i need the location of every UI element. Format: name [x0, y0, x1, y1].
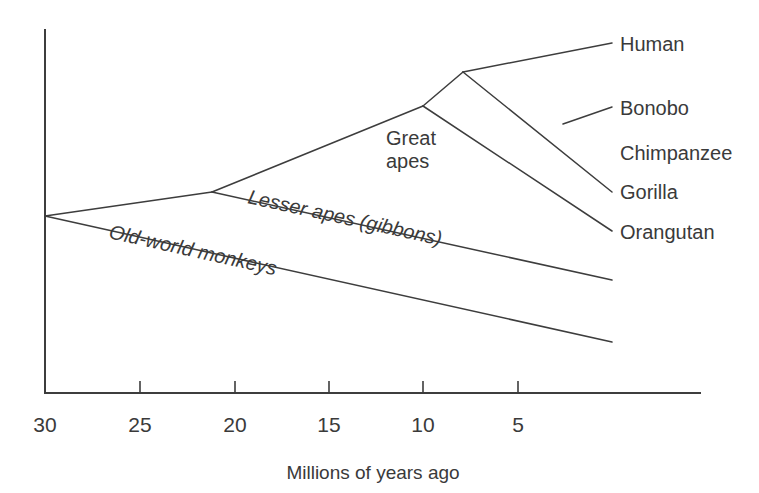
clade-label-old-world-monkeys: Old-world monkeys: [107, 220, 279, 279]
clade-label-great-apes-line2: apes: [386, 150, 429, 172]
x-tick-label-10: 10: [411, 413, 434, 436]
taxon-label-bonobo: Bonobo: [620, 97, 689, 119]
tree-diagram-canvas: 30 25 20 15 10 5 Millions of years ago: [0, 0, 759, 493]
branch-human: [463, 43, 612, 72]
x-axis-title: Millions of years ago: [286, 462, 459, 483]
phylogenetic-tree-figure: 30 25 20 15 10 5 Millions of years ago: [0, 0, 759, 493]
branch-ape-ancestor-to-great-apes: [212, 106, 423, 192]
branch-gorilla: [463, 72, 612, 192]
taxon-labels-group: Human Bonobo Chimpanzee Gorilla Oranguta…: [620, 33, 732, 243]
clade-label-great-apes-line1: Great: [386, 127, 436, 149]
x-tick-label-15: 15: [317, 413, 340, 436]
x-tick-labels-group: 30 25 20 15 10 5: [33, 413, 524, 436]
x-tick-label-30: 30: [33, 413, 56, 436]
taxon-label-human: Human: [620, 33, 684, 55]
taxon-label-chimpanzee: Chimpanzee: [620, 142, 732, 164]
branches-group: [45, 43, 612, 342]
x-tick-label-25: 25: [128, 413, 151, 436]
clade-label-lesser-apes: Lesser apes (gibbons): [246, 185, 444, 249]
taxon-label-orangutan: Orangutan: [620, 221, 715, 243]
clade-labels-group: Great apes Lesser apes (gibbons) Old-wor…: [107, 127, 444, 279]
taxon-label-gorilla: Gorilla: [620, 181, 679, 203]
branch-root-to-ape-ancestor: [45, 192, 212, 216]
branch-great-apes-to-african-apes: [423, 72, 463, 106]
branch-bonobo: [563, 107, 612, 124]
x-tick-label-20: 20: [223, 413, 246, 436]
x-tick-label-5: 5: [512, 413, 524, 436]
